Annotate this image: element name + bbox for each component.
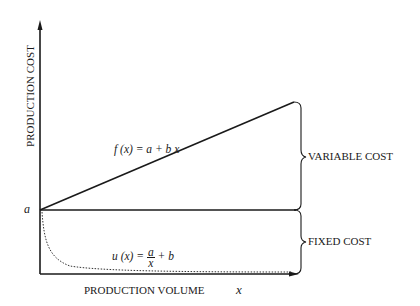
linear-equation-rhs: a + b x (146, 143, 179, 155)
unit-equation-lhs: u (x) = (112, 250, 147, 262)
x-axis-symbol: x (236, 282, 242, 298)
variable-cost-brace (294, 102, 306, 210)
total-cost-line (40, 102, 294, 210)
fraction-denominator: x (147, 258, 155, 268)
intercept-label: a (24, 202, 30, 217)
x-axis-label: PRODUCTION VOLUME (84, 284, 205, 296)
fixed-cost-brace (294, 210, 306, 274)
unit-cost-equation: u (x) = ax + b (112, 247, 174, 268)
fraction: ax (147, 247, 155, 268)
fixed-cost-label: FIXED COST (308, 235, 371, 247)
y-axis-label: PRODUCTION COST (24, 36, 36, 156)
linear-equation: f (x) = a + b x (114, 143, 179, 155)
y-axis-arrow-icon (38, 20, 43, 30)
unit-equation-rhs: + b (155, 250, 174, 262)
variable-cost-label: VARIABLE COST (308, 150, 393, 162)
linear-equation-lhs: f (x) = (114, 143, 146, 155)
cost-diagram: PRODUCTION COST a f (x) = a + b x u (x) … (0, 0, 420, 306)
